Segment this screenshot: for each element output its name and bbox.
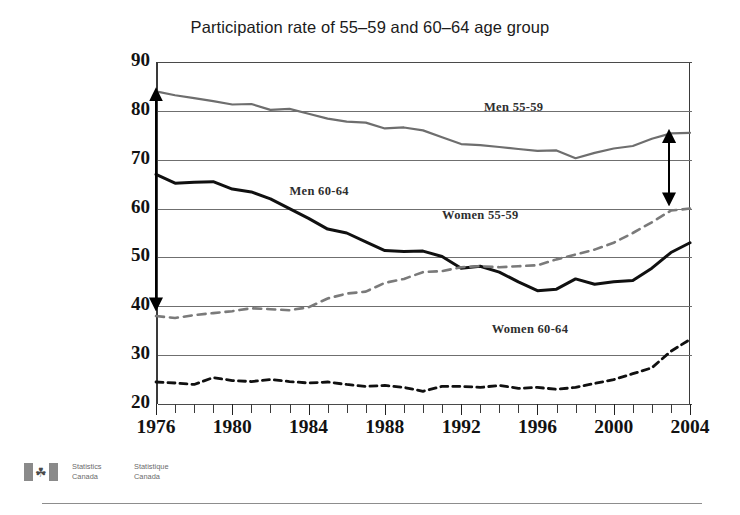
- agency-name-fr: Statistique Canada: [134, 462, 186, 482]
- footer-divider: [42, 503, 702, 504]
- flag-left-band: [24, 463, 33, 481]
- annotation-layer: [0, 0, 740, 515]
- series-label-men-55-59: Men 55-59: [484, 100, 543, 115]
- chart-figure: Participation rate of 55–59 and 60–64 ag…: [0, 0, 740, 515]
- flag-right-band: [49, 463, 58, 481]
- canada-flag-icon: ☘: [24, 463, 58, 481]
- series-label-men-60-64: Men 60-64: [290, 184, 349, 199]
- agency-name-en: Statistics Canada: [72, 462, 124, 482]
- agency-en-line1: Statistics: [72, 462, 124, 472]
- maple-leaf-icon: ☘: [35, 465, 47, 478]
- statistics-canada-wordmark: ☘ Statistics Canada Statistique Canada: [24, 462, 186, 482]
- series-label-women-60-64: Women 60-64: [492, 322, 569, 337]
- agency-fr-line1: Statistique: [134, 462, 186, 472]
- agency-en-line2: Canada: [72, 472, 124, 482]
- flag-center-panel: ☘: [33, 463, 49, 481]
- series-label-women-55-59: Women 55-59: [442, 208, 519, 223]
- agency-fr-line2: Canada: [134, 472, 186, 482]
